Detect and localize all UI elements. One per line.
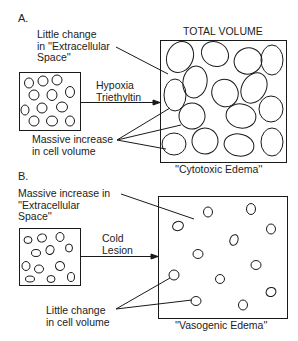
cell-volume-label-b: Little change in cell volume	[46, 305, 110, 328]
vasogenic-edema-caption: ''Vasogenic Edema''	[175, 320, 267, 332]
normal-cells-a	[21, 75, 75, 126]
total-volume-label: TOTAL VOLUME	[183, 26, 263, 38]
cause-label-b: Cold Lesion	[102, 233, 133, 256]
ecs-label-a: Little change in ''Extracellular Space''	[37, 29, 110, 64]
swollen-cells-a	[161, 37, 283, 159]
normal-tissue-box-b	[20, 229, 81, 286]
swollen-tissue-box-b	[159, 197, 288, 319]
ecs-label-b: Massive increase in ''Extracellular Spac…	[18, 188, 110, 223]
cell-volume-label-a: Massive increase in cell volume	[32, 134, 113, 157]
section-label-a: A.	[18, 13, 28, 25]
normal-cells-b	[22, 233, 75, 283]
cause-label-a: Hypoxia Triethyltin	[96, 80, 141, 103]
swollen-spaces-b	[169, 204, 277, 311]
section-label-b: B.	[18, 171, 28, 183]
swollen-tissue-box-a	[161, 41, 287, 163]
cytotoxic-edema-caption: ''Cytotoxic Edema''	[175, 164, 262, 176]
